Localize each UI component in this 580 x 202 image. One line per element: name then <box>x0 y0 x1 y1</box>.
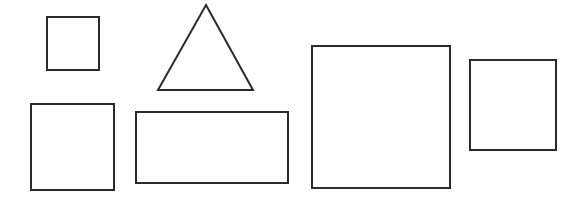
shape-square-far-right <box>470 60 556 150</box>
shape-wide-rectangle-bottom-center <box>136 112 288 183</box>
shapes-canvas <box>0 0 580 202</box>
shape-small-square-top-left <box>47 17 99 70</box>
shape-large-square-center-right <box>312 46 450 188</box>
shapes-drawing <box>0 0 580 202</box>
shape-triangle-top-center <box>158 5 253 90</box>
shape-square-bottom-left <box>31 104 114 190</box>
